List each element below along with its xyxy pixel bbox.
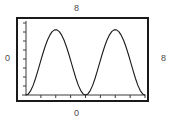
left-axis-label: 0 — [5, 54, 10, 63]
plot-figure: 8 0 8 0 — [0, 0, 171, 122]
axes-group — [22, 21, 145, 98]
top-axis-label: 8 — [0, 4, 171, 13]
plot-canvas — [18, 19, 147, 100]
plot-frame — [16, 17, 149, 102]
data-curve — [26, 30, 145, 95]
bottom-axis-label: 0 — [0, 109, 171, 118]
right-axis-label: 8 — [161, 54, 166, 63]
